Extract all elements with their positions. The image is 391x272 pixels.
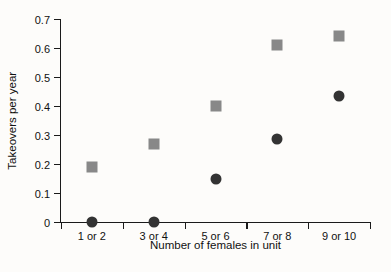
y-axis-tick-label: 0.2 <box>35 159 50 170</box>
data-point-square <box>86 161 97 172</box>
data-point-circle <box>148 217 159 228</box>
x-axis-tick <box>370 222 371 229</box>
x-axis-tick <box>246 222 247 229</box>
y-axis-tick: 0.5 <box>54 77 61 78</box>
y-axis-tick: 0.7 <box>54 19 61 20</box>
y-axis-tick: 0 <box>54 222 61 223</box>
y-axis-tick: 0.2 <box>54 164 61 165</box>
x-axis-title: Number of females in unit <box>61 240 370 252</box>
x-axis-tick <box>123 222 124 229</box>
data-point-square <box>272 40 283 51</box>
data-point-circle <box>210 173 221 184</box>
x-axis-tick <box>61 222 62 229</box>
data-point-square <box>148 138 159 149</box>
data-point-circle <box>334 90 345 101</box>
y-axis-title: Takeovers per year <box>6 19 20 222</box>
y-axis-tick-label: 0.7 <box>35 14 50 25</box>
data-point-circle <box>272 134 283 145</box>
x-axis-line <box>60 222 370 223</box>
data-point-circle <box>86 217 97 228</box>
y-axis-title-label: Takeovers per year <box>7 72 19 170</box>
x-axis-title-label: Number of females in unit <box>150 239 281 251</box>
y-axis-tick-label: 0.4 <box>35 101 50 112</box>
data-point-square <box>334 31 345 42</box>
y-axis-tick: 0.1 <box>54 193 61 194</box>
y-axis-tick-label: 0.5 <box>35 72 50 83</box>
y-axis-tick-label: 0 <box>44 217 50 228</box>
y-axis-tick-label: 0.6 <box>35 43 50 54</box>
y-axis-tick: 0.6 <box>54 48 61 49</box>
x-axis-tick <box>308 222 309 229</box>
scatter-plot-figure: Takeovers per year 0.70.60.50.40.30.20.1… <box>0 0 391 272</box>
data-point-square <box>210 101 221 112</box>
x-axis-tick <box>185 222 186 229</box>
y-axis-tick-label: 0.3 <box>35 130 50 141</box>
y-axis-tick: 0.3 <box>54 135 61 136</box>
y-axis-tick-label: 0.1 <box>35 188 50 199</box>
y-axis-tick: 0.4 <box>54 106 61 107</box>
y-axis-line <box>60 19 61 222</box>
plot-area: 0.70.60.50.40.30.20.10 1 or 23 or 45 or … <box>61 19 370 222</box>
